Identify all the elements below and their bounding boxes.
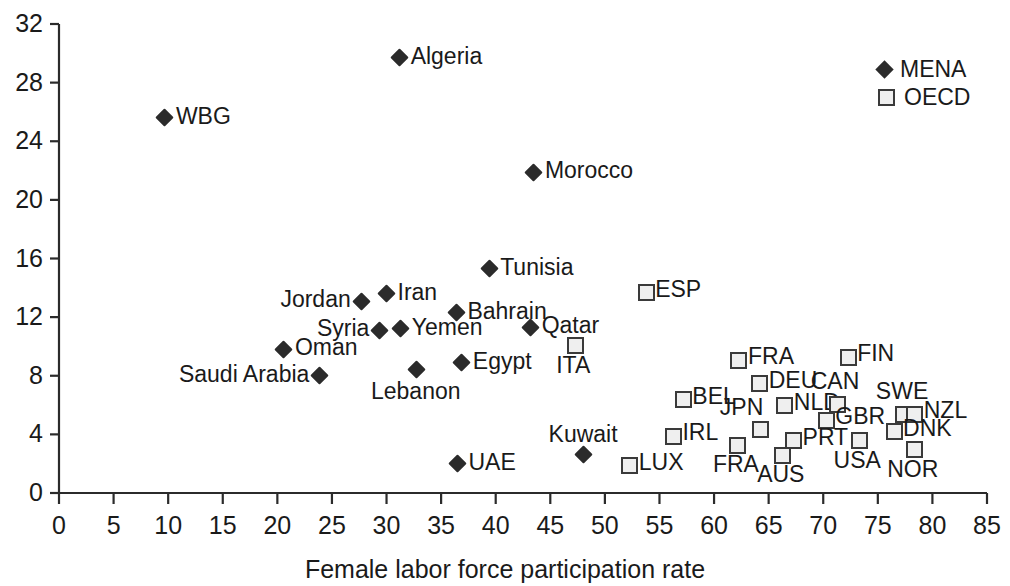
data-point-label: Morocco bbox=[545, 157, 633, 184]
data-point-label: ESP bbox=[655, 276, 701, 303]
y-tick-label: 20 bbox=[0, 185, 43, 214]
data-point-marker bbox=[675, 391, 692, 408]
x-tick-label: 15 bbox=[193, 511, 253, 540]
data-point-marker bbox=[525, 163, 543, 181]
x-tick-label: 30 bbox=[357, 511, 417, 540]
data-point-marker bbox=[730, 352, 747, 369]
x-tick-label: 50 bbox=[575, 511, 635, 540]
data-point-label: IRL bbox=[682, 419, 718, 446]
legend-item-oecd[interactable]: OECD bbox=[878, 84, 970, 111]
data-point-marker bbox=[453, 353, 471, 371]
y-tick-label: 8 bbox=[0, 361, 43, 390]
data-point-label: AUS bbox=[757, 461, 804, 488]
data-point-marker bbox=[311, 367, 329, 385]
data-point-label: Iran bbox=[398, 279, 438, 306]
x-tick-label: 40 bbox=[466, 511, 526, 540]
x-tick-label: 75 bbox=[848, 511, 908, 540]
y-tick-label: 12 bbox=[0, 302, 43, 331]
x-axis-title: Female labor force participation rate bbox=[0, 555, 1010, 584]
data-point-marker bbox=[840, 349, 857, 366]
data-point-marker bbox=[751, 375, 768, 392]
data-point-marker bbox=[480, 260, 498, 278]
data-point-label: Oman bbox=[295, 334, 358, 361]
y-tick-label: 32 bbox=[0, 9, 43, 38]
data-point-label: FIN bbox=[857, 340, 894, 367]
data-point-marker bbox=[638, 284, 655, 301]
data-point-label: UAE bbox=[468, 449, 515, 476]
data-point-marker bbox=[752, 421, 769, 438]
y-tick-label: 28 bbox=[0, 68, 43, 97]
data-point-label: Egypt bbox=[473, 348, 532, 375]
x-tick-label: 65 bbox=[739, 511, 799, 540]
data-point-label: Jordan bbox=[280, 286, 350, 313]
data-point-marker bbox=[352, 292, 370, 310]
y-tick-label: 24 bbox=[0, 126, 43, 155]
square-marker-icon bbox=[878, 89, 895, 106]
y-tick-label: 0 bbox=[0, 478, 43, 507]
x-tick-label: 55 bbox=[629, 511, 689, 540]
data-point-marker bbox=[886, 423, 903, 440]
legend-item-label: OECD bbox=[904, 84, 970, 111]
x-tick-label: 0 bbox=[29, 511, 89, 540]
data-point-label: Algeria bbox=[411, 43, 483, 70]
data-point-label: NOR bbox=[887, 456, 938, 483]
data-point-marker bbox=[371, 321, 389, 339]
x-tick-label: 85 bbox=[957, 511, 1010, 540]
data-point-label: Yemen bbox=[412, 314, 483, 341]
data-point-label: WBG bbox=[176, 103, 231, 130]
data-point-label: FRA bbox=[713, 451, 759, 478]
x-tick-label: 35 bbox=[411, 511, 471, 540]
data-point-marker bbox=[390, 49, 408, 67]
legend-item-label: MENA bbox=[900, 56, 966, 83]
diamond-marker-icon bbox=[875, 60, 893, 78]
data-point-label: CAN bbox=[811, 368, 860, 395]
x-tick-label: 80 bbox=[902, 511, 962, 540]
data-point-marker bbox=[574, 446, 592, 464]
data-point-label: SWE bbox=[876, 378, 928, 405]
data-point-marker bbox=[665, 428, 682, 445]
x-tick-label: 60 bbox=[684, 511, 744, 540]
y-tick-label: 16 bbox=[0, 244, 43, 273]
x-tick-label: 20 bbox=[247, 511, 307, 540]
data-point-marker bbox=[407, 361, 425, 379]
data-point-label: Tunisia bbox=[500, 254, 573, 281]
data-point-label: Saudi Arabia bbox=[179, 361, 309, 388]
data-point-label: ITA bbox=[556, 352, 590, 379]
data-point-label: DNK bbox=[903, 415, 952, 442]
x-tick-label: 70 bbox=[793, 511, 853, 540]
x-tick-label: 5 bbox=[84, 511, 144, 540]
legend-item-mena[interactable]: MENA bbox=[878, 56, 966, 83]
data-point-marker bbox=[448, 454, 466, 472]
x-tick-label: 10 bbox=[138, 511, 198, 540]
data-point-label: Kuwait bbox=[549, 421, 618, 448]
data-point-label: Qatar bbox=[542, 312, 600, 339]
data-point-label: JPN bbox=[720, 394, 763, 421]
x-tick-label: 45 bbox=[520, 511, 580, 540]
data-point-marker bbox=[156, 109, 174, 127]
y-tick-label: 4 bbox=[0, 419, 43, 448]
data-point-marker bbox=[776, 397, 793, 414]
x-tick-label: 25 bbox=[302, 511, 362, 540]
data-point-marker bbox=[621, 457, 638, 474]
data-point-label: LUX bbox=[639, 449, 684, 476]
data-point-marker bbox=[377, 284, 395, 302]
data-point-label: Lebanon bbox=[371, 378, 461, 405]
scatter-chart: WBGAlgeriaMoroccoTunisiaIranJordanBahrai… bbox=[0, 0, 1010, 586]
plot-area: WBGAlgeriaMoroccoTunisiaIranJordanBahrai… bbox=[0, 0, 1010, 586]
data-point-marker bbox=[392, 320, 410, 338]
data-point-label: USA bbox=[834, 447, 881, 474]
data-point-marker bbox=[275, 340, 293, 358]
